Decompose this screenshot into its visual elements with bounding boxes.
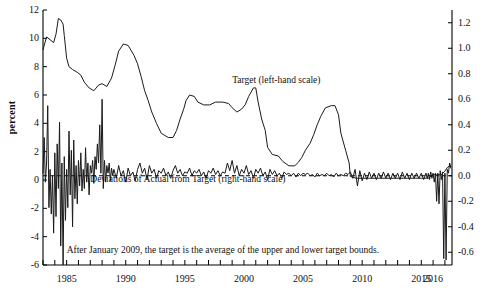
left-axis-tick-label: -6 <box>7 259 39 270</box>
annotation-deviations-label: Deviations of Actual from Target (right-… <box>90 174 285 184</box>
x-axis-tick-label: 1990 <box>104 273 148 284</box>
left-axis-tick-label: 8 <box>7 61 39 72</box>
left-axis-tick-label: 4 <box>7 117 39 128</box>
chart-root: percent 121086420-2-4-6 1.21.00.80.60.40… <box>0 0 493 295</box>
right-axis-tick-label: -0.6 <box>458 246 492 257</box>
series-line <box>43 19 451 179</box>
series-layer <box>43 19 451 266</box>
right-axis-tick-label: 0.6 <box>458 93 492 104</box>
x-axis-tick-label: 1985 <box>45 273 89 284</box>
left-axis-tick-label: 2 <box>7 146 39 157</box>
left-axis-tick-label: 12 <box>7 4 39 15</box>
left-axis-tick-label: -4 <box>7 231 39 242</box>
right-axis-tick-label: 0.8 <box>458 68 492 79</box>
x-axis-tick-label: 1995 <box>163 273 207 284</box>
annotation-target-label: Target (left-hand scale) <box>232 75 320 85</box>
axes-layer <box>43 10 452 265</box>
x-axis-tick-label: 2000 <box>222 273 266 284</box>
x-axis-tick-label: 2005 <box>281 273 325 284</box>
right-axis-tick-label: -0.4 <box>458 221 492 232</box>
right-axis-tick-label: 1.2 <box>458 17 492 28</box>
right-axis-tick-label: -0.2 <box>458 195 492 206</box>
x-axis-tick-label: 2016 <box>411 273 455 284</box>
left-axis-tick-label: -2 <box>7 202 39 213</box>
left-axis-tick-label: 6 <box>7 89 39 100</box>
right-axis-tick-label: 0.0 <box>458 170 492 181</box>
left-axis-tick-label: 0 <box>7 174 39 185</box>
right-axis-tick-label: 0.2 <box>458 144 492 155</box>
left-axis-tick-label: 10 <box>7 32 39 43</box>
x-axis-tick-label: 2010 <box>340 273 384 284</box>
annotation-footnote: After January 2009, the target is the av… <box>67 245 380 255</box>
right-axis-tick-label: 0.4 <box>458 119 492 130</box>
right-axis-tick-label: 1.0 <box>458 42 492 53</box>
